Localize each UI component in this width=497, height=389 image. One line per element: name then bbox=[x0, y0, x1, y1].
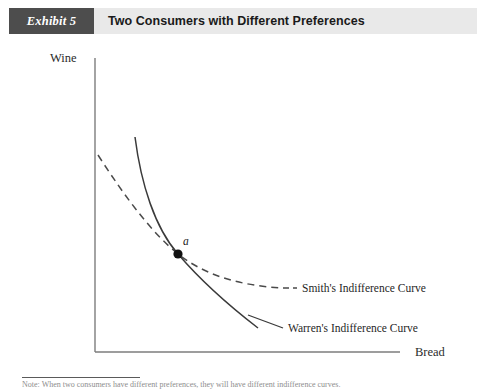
warren-curve-label: Warren's Indifference Curve bbox=[288, 322, 418, 334]
point-a-marker bbox=[173, 249, 182, 258]
indifference-curve-chart: Wine Bread a Smith's Indifference Curve … bbox=[0, 34, 497, 369]
chart-figure: Wine Bread a Smith's Indifference Curve … bbox=[0, 34, 497, 369]
exhibit-figure-page: Exhibit 5 Two Consumers with Different P… bbox=[0, 0, 497, 389]
exhibit-title: Two Consumers with Different Preferences bbox=[94, 8, 477, 34]
smith-curve-label: Smith's Indifference Curve bbox=[302, 282, 426, 294]
footnote-divider bbox=[22, 377, 140, 378]
y-axis-label: Wine bbox=[50, 51, 77, 65]
warren-indifference-curve bbox=[135, 137, 258, 328]
warren-label-leader bbox=[248, 315, 283, 328]
footnote-note: Note: When two consumers have different … bbox=[22, 380, 487, 389]
exhibit-number-tag: Exhibit 5 bbox=[9, 8, 94, 34]
exhibit-header: Exhibit 5 Two Consumers with Different P… bbox=[9, 8, 477, 34]
point-a-label: a bbox=[183, 235, 189, 247]
x-axis-label: Bread bbox=[415, 345, 446, 359]
